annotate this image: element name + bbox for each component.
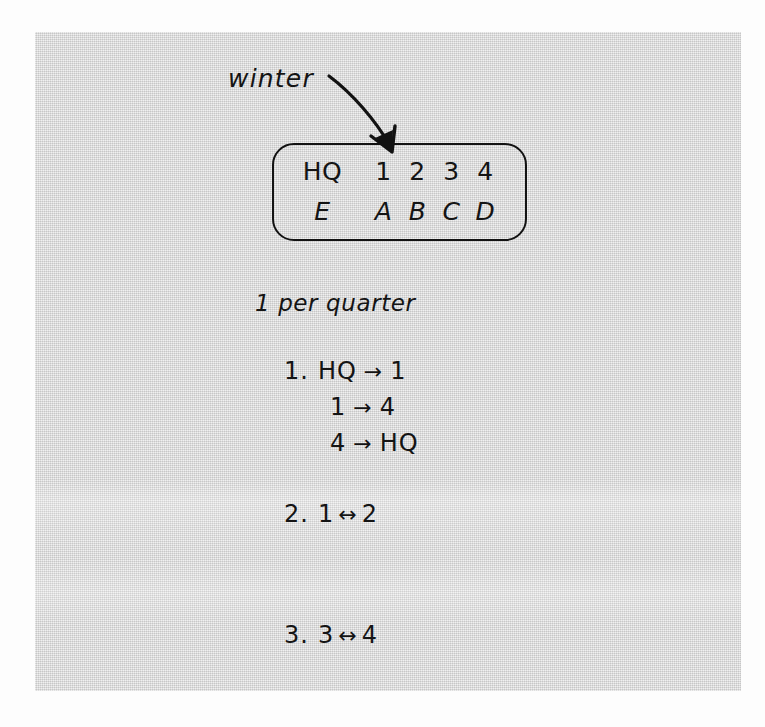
paper-panel: winter HQ 1 2 3 4 E A B: [35, 32, 741, 691]
rule-item-2: 2.1↔2: [284, 500, 378, 528]
rate-line: 1 per quarter: [255, 290, 416, 316]
diagram-screenshot: winter HQ 1 2 3 4 E A B: [0, 0, 765, 727]
double-arrow-icon: ↔: [334, 623, 361, 648]
rule-1-line-3: 4→HQ: [284, 429, 419, 457]
rule-3-number: 3.: [284, 621, 309, 649]
grid-cell-letter-3: C: [435, 197, 469, 226]
rule-3-line-1-to: 4: [362, 621, 378, 649]
grid-cell-letter-4: D: [469, 197, 503, 226]
rule-1-line-3-from: 4: [330, 429, 346, 457]
rule-item-1: 1.HQ→1 1→4 4→HQ: [284, 357, 419, 457]
grid-row-letters: E A B C D: [274, 197, 525, 226]
right-arrow-icon: →: [357, 359, 390, 384]
double-arrow-icon: ↔: [334, 502, 361, 527]
rule-item-3: 3.3↔4: [284, 621, 378, 649]
rule-1-line-3-to: HQ: [380, 429, 419, 457]
grid-cell-node-1: 1: [367, 157, 401, 186]
rule-2-number: 2.: [284, 500, 309, 528]
grid-cell-letter-2: B: [401, 197, 435, 226]
rule-1-line-2-from: 1: [330, 393, 346, 421]
right-arrow-icon: →: [346, 431, 379, 456]
rule-1-line-1: 1.HQ→1: [284, 357, 419, 385]
rule-1-number: 1.: [284, 357, 309, 385]
diagram-content: winter HQ 1 2 3 4 E A B: [35, 32, 741, 691]
rule-2-line-1-to: 2: [362, 500, 378, 528]
network-node-box: HQ 1 2 3 4 E A B C D: [272, 143, 527, 241]
grid-cell-node-4: 4: [469, 157, 503, 186]
rule-3-line-1-from: 3: [318, 621, 334, 649]
rule-2-line-1-from: 1: [318, 500, 334, 528]
winter-annotation-label: winter: [228, 64, 314, 93]
grid-cell-letter-0: E: [297, 197, 349, 226]
right-arrow-icon: →: [346, 395, 379, 420]
rule-1-line-2: 1→4: [284, 393, 419, 421]
rule-1-line-2-to: 4: [380, 393, 396, 421]
grid-cell-node-2: 2: [401, 157, 435, 186]
grid-cell-node-3: 3: [435, 157, 469, 186]
grid-cell-letter-1: A: [367, 197, 401, 226]
rule-1-line-1-to: 1: [390, 357, 406, 385]
grid-row-nodes: HQ 1 2 3 4: [274, 157, 525, 186]
grid-cell-node-0: HQ: [297, 157, 349, 186]
rule-1-line-1-from: HQ: [318, 357, 357, 385]
